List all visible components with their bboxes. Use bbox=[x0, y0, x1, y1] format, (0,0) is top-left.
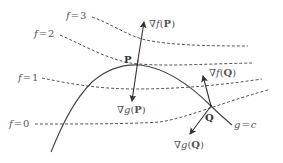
label-f3: f=3 bbox=[65, 10, 86, 21]
label-f1: f=1 bbox=[17, 72, 38, 83]
label-grad-f-P: ∇f(P) bbox=[149, 18, 175, 29]
point-Q-dot bbox=[210, 105, 212, 107]
label-point-P: P bbox=[124, 54, 132, 65]
label-f2: f=2 bbox=[33, 28, 54, 39]
label-grad-g-P: ∇g(P) bbox=[117, 104, 146, 115]
level-curve-f1 bbox=[42, 78, 262, 89]
label-grad-f-Q: ∇f(Q) bbox=[209, 67, 236, 78]
label-grad-g-Q: ∇g(Q) bbox=[174, 139, 204, 150]
grad-g-P-arrow bbox=[132, 60, 138, 101]
level-curve-f2 bbox=[60, 35, 252, 65]
label-constraint: g=c bbox=[234, 119, 257, 130]
lagrange-multiplier-diagram: f=3 f=2 f=1 f=0 P Q g=c ∇f(P) ∇g(P) ∇f(Q… bbox=[0, 0, 283, 163]
label-f0: f=0 bbox=[8, 118, 29, 129]
grad-f-P-arrow bbox=[137, 22, 144, 66]
label-point-Q: Q bbox=[205, 112, 214, 123]
